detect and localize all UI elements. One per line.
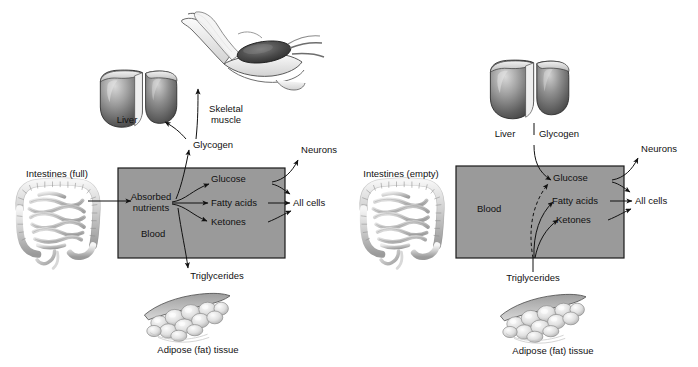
skeletal-muscle-label-line1: Skeletal xyxy=(209,103,243,114)
fuel-label-fatty-acids: Fatty acids xyxy=(211,197,257,208)
blood-label: Blood xyxy=(477,203,501,214)
liver-label: Liver xyxy=(117,114,138,125)
glycogen-label: Glycogen xyxy=(193,139,233,150)
neurons-label: Neurons xyxy=(301,144,337,155)
skeletal-muscle-label-line2: muscle xyxy=(211,114,241,125)
arrow-glycogen-to-liver xyxy=(165,122,186,139)
glycogen-label: Glycogen xyxy=(539,128,579,139)
intestines-illustration xyxy=(361,181,442,268)
triglycerides-label: Triglycerides xyxy=(190,270,244,281)
adipose-illustration xyxy=(144,293,230,342)
fuel-label-fatty-acids: Fatty acids xyxy=(552,195,598,206)
intestines-label: Intestines (full) xyxy=(26,168,88,179)
adipose-illustration xyxy=(500,294,586,343)
fuel-label-ketones: Ketones xyxy=(211,216,246,227)
intestines-label: Intestines (empty) xyxy=(363,168,439,179)
liver-illustration xyxy=(490,60,569,119)
all-cells-label: All cells xyxy=(635,195,667,206)
triglycerides-label: Triglycerides xyxy=(506,272,560,283)
liver-illustration xyxy=(100,70,177,127)
diagram-vector-layer xyxy=(0,0,698,367)
blood-compartment-box xyxy=(118,168,285,258)
all-cells-label: All cells xyxy=(293,197,325,208)
adipose-label: Adipose (fat) tissue xyxy=(512,345,593,356)
fuel-label-glucose: Glucose xyxy=(211,173,246,184)
skeletal-muscle-illustration xyxy=(182,12,324,90)
blood-label: Blood xyxy=(141,228,165,239)
figure-canvas: Skeletal muscle Liver Glycogen Intestine… xyxy=(0,0,698,367)
absorbed-nutrients-label-line2: nutrients xyxy=(133,202,169,213)
absorbed-nutrients-label-line1: Absorbed xyxy=(131,191,172,202)
liver-label: Liver xyxy=(495,128,516,139)
adipose-label: Adipose (fat) tissue xyxy=(157,344,238,355)
neurons-label: Neurons xyxy=(641,143,677,154)
fuel-label-glucose: Glucose xyxy=(553,172,588,183)
arrow-glycogen-to-muscle xyxy=(196,89,198,139)
intestines-illustration xyxy=(17,181,98,268)
fuel-label-ketones: Ketones xyxy=(556,214,591,225)
